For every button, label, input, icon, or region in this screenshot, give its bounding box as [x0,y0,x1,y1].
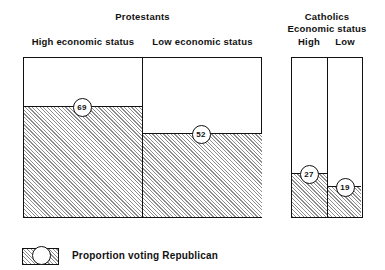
bar-protestants-high[interactable] [24,58,142,217]
value-badge-catholics-high: 27 [300,165,319,184]
value-badge-protestants-low: 52 [192,125,211,144]
protestants-low-column-label: Low economic status [143,36,262,47]
legend-swatch-hatch [22,248,59,265]
protestants-group-title: Protestants [23,11,262,22]
chart-figure: Protestants High economic status Low eco… [0,0,385,270]
catholics-group-title: Catholics [285,11,369,22]
bar-fill-protestants-low [143,133,261,217]
protestants-high-column-label: High economic status [23,36,143,47]
chart-legend: Proportion voting Republican [22,243,362,269]
value-badge-protestants-high: 69 [73,98,92,117]
bar-catholics-high[interactable] [292,58,327,217]
catholics-group-subtitle: Economic status [281,23,373,34]
legend-label: Proportion voting Republican [72,250,218,261]
legend-swatch-circle [32,246,51,265]
catholics-low-column-label: Low [327,36,363,47]
catholics-high-column-label: High [291,36,327,47]
bar-fill-protestants-high [24,106,142,217]
value-badge-catholics-low: 19 [336,178,355,197]
protestants-panel [23,57,262,218]
